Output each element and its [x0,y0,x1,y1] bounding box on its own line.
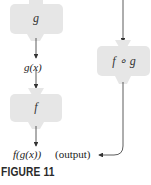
arrow-composite-out [99,82,123,155]
output-label: f(g(x)) [13,148,41,160]
intermediate-label: g(x) [24,61,42,73]
machine-g-label: g [29,11,43,26]
machine-f-label: f [29,100,43,115]
machine-composite-label: f ∘ g [105,54,143,69]
output-note: (output) [55,148,90,160]
figure-caption: FIGURE 11 [1,165,55,179]
